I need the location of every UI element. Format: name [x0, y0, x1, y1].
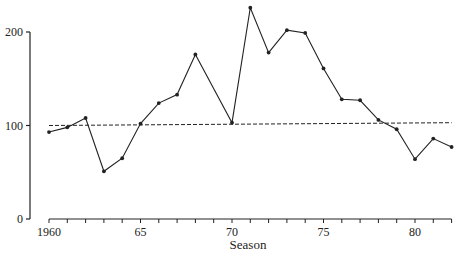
x-axis: 196065707580 — [37, 219, 452, 239]
data-point-marker — [285, 28, 289, 32]
data-point-marker — [431, 137, 435, 141]
data-point-marker — [413, 157, 417, 161]
x-tick-label: 65 — [135, 225, 147, 239]
line-chart: 0100200 196065707580 Season — [0, 0, 463, 262]
x-axis-label: Season — [230, 237, 267, 252]
data-point-marker — [450, 145, 454, 149]
y-tick-label: 100 — [5, 119, 23, 133]
data-point-marker — [248, 6, 252, 10]
data-point-marker — [395, 127, 399, 131]
y-tick-label: 0 — [17, 212, 23, 226]
data-point-marker — [157, 101, 161, 105]
data-point-marker — [102, 169, 106, 173]
series-line — [49, 8, 452, 172]
data-point-marker — [377, 118, 381, 122]
data-point-marker — [84, 116, 88, 120]
plot-area — [47, 6, 453, 173]
data-point-marker — [358, 98, 362, 102]
data-point-marker — [267, 51, 271, 55]
data-point-marker — [303, 31, 307, 35]
y-tick-label: 200 — [5, 25, 23, 39]
data-point-marker — [322, 67, 326, 71]
y-axis: 0100200 — [5, 25, 30, 226]
x-tick-label: 75 — [318, 225, 330, 239]
x-tick-label: 80 — [409, 225, 421, 239]
data-point-marker — [194, 53, 198, 57]
data-point-marker — [175, 93, 179, 97]
trend-line — [49, 123, 452, 126]
data-point-marker — [65, 125, 69, 129]
data-point-marker — [120, 156, 124, 160]
data-point-marker — [340, 97, 344, 101]
data-point-marker — [47, 130, 51, 134]
x-tick-label: 1960 — [37, 225, 61, 239]
